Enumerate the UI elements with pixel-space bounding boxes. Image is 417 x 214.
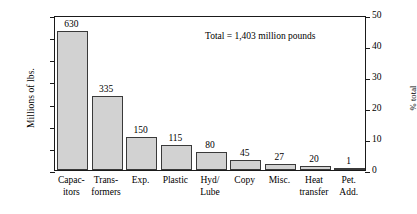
x-axis-category-label: Pet. Add.	[323, 175, 375, 198]
y-tick-right	[365, 17, 370, 18]
y-tick-label-right: 0	[372, 166, 402, 176]
y-tick-left	[50, 83, 55, 84]
y-tick-left	[50, 128, 55, 129]
y-tick-label-right: 40	[372, 42, 402, 52]
bar	[334, 168, 365, 171]
bar	[126, 137, 157, 170]
y-tick-label-right: 30	[372, 73, 402, 83]
y-tick-left	[50, 172, 55, 173]
bar	[161, 145, 192, 170]
y-tick-right	[365, 141, 370, 142]
bar	[92, 96, 123, 170]
chart-annotation-total: Total = 1,403 million pounds	[205, 31, 316, 41]
y-tick-right	[365, 110, 370, 111]
bar-value-label: 630	[51, 20, 91, 30]
bar-value-label: 1	[329, 157, 369, 167]
bar	[196, 152, 227, 170]
y-axis-label-right: % total	[408, 43, 417, 153]
y-tick-left	[50, 61, 55, 62]
y-tick-left	[50, 17, 55, 18]
y-tick-right	[365, 79, 370, 80]
y-tick-right	[365, 48, 370, 49]
bar	[230, 160, 261, 170]
y-tick-label-right: 50	[372, 11, 402, 21]
bar	[265, 164, 296, 170]
y-tick-left	[50, 39, 55, 40]
y-tick-left	[50, 150, 55, 151]
y-tick-right	[365, 172, 370, 173]
y-tick-label-right: 10	[372, 135, 402, 145]
y-tick-left	[50, 106, 55, 107]
bar-chart: Millions of lbs. % total Total = 1,403 m…	[0, 0, 417, 214]
bar	[57, 31, 88, 171]
y-axis-label-left: Millions of lbs.	[26, 43, 36, 153]
bar-value-label: 335	[86, 85, 126, 95]
bar	[300, 166, 331, 170]
y-tick-label-right: 20	[372, 104, 402, 114]
